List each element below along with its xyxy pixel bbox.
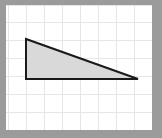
grid-plot-area (6, 5, 152, 130)
shape-layer (6, 5, 152, 130)
right-triangle-shape (26, 39, 138, 79)
figure-canvas (0, 0, 162, 138)
